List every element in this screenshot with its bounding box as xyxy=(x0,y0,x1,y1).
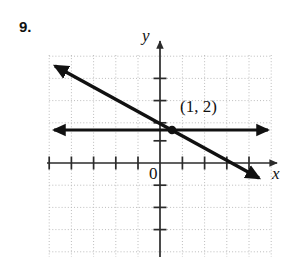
axes xyxy=(47,41,277,257)
intersection-point-dot xyxy=(168,126,177,135)
slanted-line-graph xyxy=(55,66,259,178)
point-coordinate-label: (1, 2) xyxy=(180,98,217,115)
y-axis-label: y xyxy=(142,27,150,44)
figure-root: 9. xyxy=(0,0,290,257)
x-axis-label: x xyxy=(272,165,280,182)
origin-label: 0 xyxy=(149,165,158,182)
